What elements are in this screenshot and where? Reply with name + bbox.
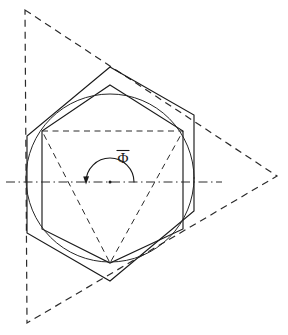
- figure-canvas: Φ: [0, 0, 288, 335]
- geometry-diagram: Φ: [0, 0, 288, 335]
- angle-arrow-head: [83, 176, 89, 184]
- outer-dashed-triangle: [25, 10, 277, 323]
- phi-bar-angle-label: Φ: [118, 150, 129, 166]
- outer-solid-hexagon: [27, 67, 194, 281]
- inscribed-circle: [26, 94, 194, 262]
- center-point-dot: [109, 181, 112, 184]
